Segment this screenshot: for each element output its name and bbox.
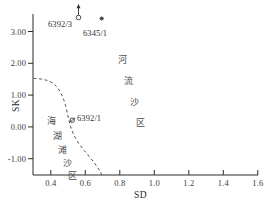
zone-beach-char-4: 沙 bbox=[63, 159, 72, 168]
point-label-6392-3: 6392/3 bbox=[48, 19, 72, 29]
y-axis-ticks bbox=[28, 32, 33, 159]
zone-beach-char-2: 湖 bbox=[53, 132, 62, 141]
y-tick-label-2: 2.00 bbox=[0, 58, 26, 68]
x-tick-label-1-2: 1.2 bbox=[175, 178, 203, 188]
x-tick-label-0-4: 0.4 bbox=[37, 178, 65, 188]
data-point-6392-3 bbox=[76, 4, 81, 20]
zone-river-char-4: 区 bbox=[136, 119, 145, 128]
zone-beach-char-5: 区 bbox=[68, 172, 77, 181]
zone-river-char-1: 河 bbox=[118, 56, 127, 65]
x-tick-label-1-6: 1.6 bbox=[244, 178, 266, 188]
x-axis-title: SD bbox=[134, 190, 147, 200]
zone-river-char-2: 流 bbox=[124, 77, 133, 86]
zone-beach-char-1: 海 bbox=[47, 117, 56, 126]
sd-sk-scatter-chart: 3.00 2.00 1.00 0.00 -1.00 0.4 0.6 0.8 1.… bbox=[0, 0, 266, 209]
x-tick-label-1-0: 1.0 bbox=[140, 178, 168, 188]
point-label-6392-1: 6392/1 bbox=[77, 113, 101, 123]
y-axis-title: SK bbox=[11, 99, 21, 112]
data-point-6345-1 bbox=[100, 16, 104, 20]
zone-river-char-3: 沙 bbox=[130, 98, 139, 107]
data-point-6392-1 bbox=[69, 118, 75, 123]
point-label-6345-1: 6345/1 bbox=[83, 28, 107, 38]
x-tick-label-0-8: 0.8 bbox=[106, 178, 134, 188]
x-tick-label-1-4: 1.4 bbox=[209, 178, 237, 188]
y-tick-label-3: 3.00 bbox=[0, 27, 26, 37]
y-tick-label-neg1: -1.00 bbox=[0, 154, 26, 164]
zone-beach-char-3: 滩 bbox=[58, 146, 67, 155]
y-tick-label-0: 0.00 bbox=[0, 122, 26, 132]
x-axis-ticks bbox=[51, 170, 258, 175]
